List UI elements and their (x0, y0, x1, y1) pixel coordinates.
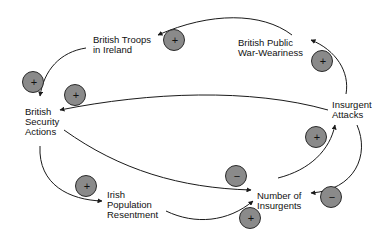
svg-text:+: + (73, 89, 79, 101)
svg-text:+: + (172, 34, 178, 46)
svg-text:+: + (314, 131, 320, 143)
svg-text:+: + (320, 55, 326, 67)
node-number-of-insurgents: Number of Insurgents (257, 191, 301, 211)
node-irish-population-resentment: Irish Population Resentment (107, 190, 158, 220)
polarity-marker-plus: + (76, 176, 97, 197)
node-insurgent-attacks: Insurgent Attacks (332, 100, 372, 120)
svg-text:+: + (31, 76, 37, 88)
polarity-marker-plus: + (23, 72, 44, 93)
svg-text:−: − (329, 191, 335, 203)
polarity-marker-minus: − (321, 187, 342, 208)
svg-text:+: + (248, 212, 254, 224)
polarity-marker-plus: + (65, 85, 86, 106)
causal-loop-diagram: + + + + + + − (0, 0, 391, 240)
node-british-troops-in-ireland: British Troops in Ireland (93, 35, 151, 55)
polarity-marker-plus: + (312, 51, 333, 72)
node-british-security-actions: British Security Actions (25, 107, 59, 137)
svg-text:−: − (234, 170, 240, 182)
edge-attacks-to-security (60, 95, 328, 110)
svg-text:+: + (84, 180, 90, 192)
polarity-marker-plus: + (306, 127, 327, 148)
polarity-marker-minus: − (226, 166, 247, 187)
polarity-marker-plus: + (164, 30, 185, 51)
node-british-public-war-weariness: British Public War-Weariness (238, 38, 303, 58)
